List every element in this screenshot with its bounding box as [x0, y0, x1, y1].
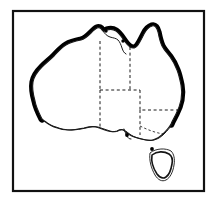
- coast-marker-portphillip: [150, 147, 154, 151]
- coast-marker-arnhem: [104, 29, 107, 32]
- coast-marker-gulf: [121, 39, 124, 42]
- coast-marker-southeast: [125, 133, 129, 137]
- australia-map-svg: [0, 0, 218, 204]
- figure-root: Map of Australia Outline map of Australi…: [0, 0, 218, 204]
